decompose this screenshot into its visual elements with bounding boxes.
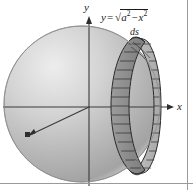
- curve-equation-label: y=√a2−x2: [101, 9, 148, 23]
- y-axis-arrowhead: [86, 16, 92, 24]
- axis-label-x: x: [177, 101, 182, 112]
- equation-radicand: a2−x2: [120, 9, 148, 23]
- axis-label-y: y: [84, 2, 89, 13]
- equation-equals: =: [106, 11, 114, 23]
- figure-sphere-surface-area: y x y=√a2−x2 ds: [0, 0, 193, 190]
- equation-exp-x: 2: [144, 9, 148, 18]
- diagram-canvas: [0, 0, 193, 190]
- arc-element-label-ds: ds: [130, 27, 139, 37]
- equation-radical-group: √a2−x2: [114, 9, 148, 23]
- equation-minus: −: [130, 11, 138, 23]
- x-axis-arrowhead: [167, 104, 174, 110]
